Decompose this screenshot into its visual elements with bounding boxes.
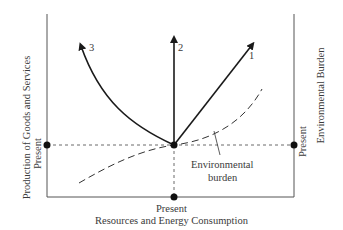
y-axis-right-label: Environmental Burden (315, 46, 326, 146)
y-axis-left-label: Production of Goods and Services (21, 48, 32, 208)
arrow-2-label: 2 (178, 42, 183, 53)
present-dot-center (171, 142, 178, 149)
present-dot-bottom (171, 194, 178, 201)
x-axis-label: Resources and Energy Consumption (95, 215, 248, 226)
arrow-1-label: 1 (249, 50, 254, 61)
curve-label-line1: Environmental (191, 159, 253, 170)
present-bottom-label: Present (156, 203, 187, 214)
present-left-label: Present (32, 134, 43, 174)
curve-label-line2: burden (208, 172, 237, 183)
present-right-label: Present (297, 122, 308, 162)
burden-leader-line (214, 131, 220, 155)
arrow-3 (81, 46, 174, 145)
arrow-1 (174, 45, 252, 145)
present-dot-left (44, 142, 51, 149)
diagram-canvas (0, 0, 343, 230)
arrow-3-label: 3 (89, 42, 94, 53)
